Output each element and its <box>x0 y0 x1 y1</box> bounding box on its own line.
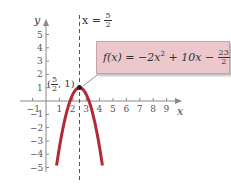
x-tick-label: 9 <box>164 104 170 114</box>
leader-line <box>83 72 101 86</box>
y-tick-label: 1 <box>37 83 43 93</box>
y-axis-label: y <box>33 14 41 27</box>
x-tick-label: 1 <box>56 104 62 114</box>
x-ticks: −1123456789 <box>27 98 170 114</box>
x-tick-label: 2 <box>70 104 76 114</box>
y-tick-label: −5 <box>30 163 44 173</box>
y-tick-label: 2 <box>37 69 43 79</box>
x-tick-label: 8 <box>150 104 156 114</box>
x-tick-label: 4 <box>97 104 103 114</box>
y-tick-label: −1 <box>30 109 43 119</box>
y-axis-arrow-icon <box>43 19 49 26</box>
y-tick-label: 3 <box>37 56 43 66</box>
x-tick-label: 5 <box>110 104 116 114</box>
y-tick-label: −4 <box>30 149 44 159</box>
y-tick-label: 4 <box>37 43 43 53</box>
x-tick-label: 7 <box>137 104 143 114</box>
vertex-label: (52, 1) <box>47 76 75 93</box>
y-tick-label: −2 <box>30 123 43 133</box>
vertex-point <box>77 85 82 90</box>
axis-of-symmetry-label: x = 52 <box>82 12 112 29</box>
chart-plot: −1123456789 54321−1−2−3−4−5 y x <box>0 0 231 194</box>
x-tick-label: 3 <box>83 104 89 114</box>
x-axis-label: x <box>177 105 184 118</box>
function-label-box: f(x) = −2x2 + 10x − 232 <box>96 41 230 74</box>
x-axis-arrow-icon <box>175 98 182 104</box>
y-tick-label: 5 <box>37 30 43 40</box>
function-formula: f(x) = −2x2 + 10x − 232 <box>103 49 230 66</box>
x-tick-label: 6 <box>123 104 129 114</box>
y-tick-label: −3 <box>30 136 44 146</box>
